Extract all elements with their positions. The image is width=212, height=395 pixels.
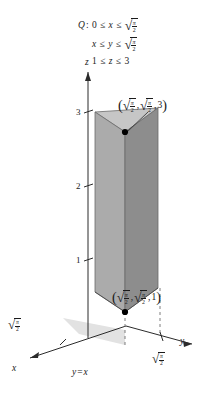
line2-upper-radical: √π2 (124, 37, 137, 52)
constraint-line-2: x ≤ y ≤ √π2 (78, 37, 208, 56)
radical-sign: √ (8, 319, 15, 332)
line2-lower: x (92, 39, 96, 49)
radical-sign: √ (125, 19, 133, 33)
y-tick-label-radical: √π2 (152, 352, 165, 367)
line3-rel2: ≤ (115, 56, 122, 66)
floor-shadow (63, 318, 125, 345)
x-tick-den: 2 (15, 327, 20, 333)
line2-rel1: ≤ (99, 39, 106, 49)
z-tick-label-3: 3 (76, 108, 81, 117)
y-axis-arrowhead (183, 341, 192, 347)
x-tick-label-radical: √π2 (8, 318, 21, 333)
paren-close: ) (162, 97, 167, 113)
vertex-label-top: (√π2,√π2,3) (118, 98, 167, 113)
line1-upper-radical: √π2 (125, 18, 138, 33)
z-tick-label-2: 2 (76, 182, 81, 191)
x-axis-tick (60, 339, 66, 345)
vertex-dot-bottom (122, 309, 128, 315)
line3-lower: 1 (92, 56, 97, 66)
colon: : (85, 20, 90, 30)
vertex-dot-top (122, 129, 128, 135)
x-axis-arrowhead (30, 352, 39, 358)
equals-sign: = (76, 367, 83, 377)
line1-variable: x (109, 20, 113, 30)
radical-sign: √ (117, 291, 125, 305)
x-tick-radical: √π2 (8, 318, 21, 333)
y-axis-tick (160, 332, 163, 341)
radical-sign: √ (123, 99, 131, 113)
bottom-y-radical: √π2 (134, 290, 147, 305)
constraint-block: Q: 0 ≤ x ≤ √π2 x ≤ y ≤ √π2 1 ≤ z ≤ 3 (78, 18, 208, 75)
constraint-line-1: Q: 0 ≤ x ≤ √π2 (78, 18, 208, 37)
line2-rel2: ≤ (115, 39, 122, 49)
constraint-line-3: 1 ≤ z ≤ 3 (78, 56, 208, 75)
z-tick-label-1: 1 (76, 256, 81, 265)
line1-rel2: ≤ (115, 20, 122, 30)
line3-variable: z (109, 56, 113, 66)
prism-left-face (95, 112, 125, 312)
z-axis-label: z (85, 58, 89, 68)
radical-sign: √ (124, 38, 132, 52)
y-tick-den: 2 (159, 361, 164, 367)
line1-lower: 0 (92, 20, 97, 30)
line3-upper: 3 (124, 56, 129, 66)
prism-right-face (125, 108, 158, 312)
y-axis-label: y (180, 337, 184, 347)
y-tick-radical: √π2 (152, 352, 165, 367)
top-y-radical: √π2 (140, 98, 153, 113)
radical-sign: √ (152, 353, 159, 366)
plane-rhs: x (84, 367, 88, 377)
plane-equation-label: y=x (72, 368, 88, 378)
bottom-x-radical: √π2 (117, 290, 130, 305)
line3-rel1: ≤ (99, 56, 106, 66)
top-x-radical: √π2 (123, 98, 136, 113)
x-axis-label: x (12, 364, 16, 374)
vertex-label-bottom: (√π2,√π2,1) (112, 290, 161, 305)
radical-sign: √ (140, 99, 148, 113)
radical-sign: √ (134, 291, 142, 305)
paren-close: ) (156, 289, 161, 305)
region-name: Q (78, 20, 85, 30)
line1-rel1: ≤ (99, 20, 106, 30)
line2-variable: y (108, 39, 112, 49)
